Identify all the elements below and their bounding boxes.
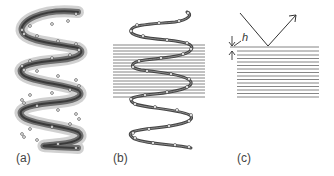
shaded-helix (0, 0, 105, 176)
panel-a: (a) (0, 0, 105, 176)
panel-a-label: (a) (16, 151, 31, 165)
reflected-ray-arrow (268, 15, 296, 46)
helix-over-layers (105, 0, 220, 176)
panel-c: h (c) (215, 0, 334, 176)
panel-b-label: (b) (113, 151, 128, 165)
reflection-diagram: h (215, 0, 334, 176)
h-spacing-marker (229, 36, 241, 60)
layer-lines (230, 47, 319, 97)
h-label: h (242, 31, 248, 43)
panel-c-label: (c) (237, 151, 251, 165)
panel-b: (b) (105, 0, 220, 176)
